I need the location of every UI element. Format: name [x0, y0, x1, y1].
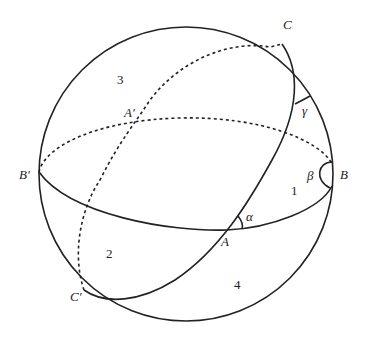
sphere-outline — [39, 27, 333, 321]
spherical-diagram: C γ 3 A′ B′ β B 1 α A 2 4 C′ — [0, 0, 365, 341]
point-a-prime-label: A′ — [124, 106, 135, 119]
point-b-prime-label: B′ — [19, 168, 30, 181]
angle-alpha-arc — [238, 216, 242, 229]
great-circle-cc-front — [84, 44, 294, 299]
region-3-label: 3 — [117, 73, 124, 86]
angle-alpha-label: α — [246, 210, 253, 223]
point-c-label: C — [283, 18, 292, 31]
great-circle-bb-front — [39, 172, 332, 230]
region-4-label: 4 — [234, 278, 241, 291]
point-a-label: A — [221, 235, 229, 248]
point-b-label: B — [340, 168, 348, 181]
angle-beta-label: β — [307, 169, 313, 182]
point-c-prime-label: C′ — [70, 290, 82, 303]
region-1-label: 1 — [291, 184, 298, 197]
angle-gamma-label: γ — [302, 104, 307, 117]
region-2-label: 2 — [106, 247, 113, 260]
angle-beta-arc — [320, 162, 332, 188]
